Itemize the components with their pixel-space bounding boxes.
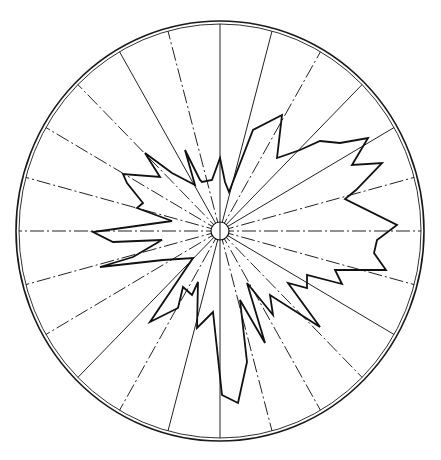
spoke-line — [220, 177, 414, 231]
spoke-line — [46, 231, 220, 335]
rose-outline — [93, 115, 397, 403]
spoke-line — [120, 52, 221, 231]
spoke-line — [26, 177, 220, 231]
spoke-line — [220, 231, 272, 431]
spoke-line — [220, 128, 394, 232]
spoke-line — [220, 231, 414, 285]
spoke-line — [168, 31, 220, 231]
spoke-line — [168, 231, 220, 431]
polar-rose-diagram — [0, 0, 441, 460]
spoke-line — [220, 231, 321, 410]
spoke-line — [78, 231, 220, 377]
spoke-line — [220, 52, 321, 231]
spoke-line — [220, 31, 272, 231]
